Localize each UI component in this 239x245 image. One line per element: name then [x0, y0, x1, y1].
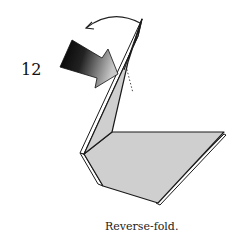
fold-line-dotted — [126, 66, 133, 93]
step-number: 12 — [21, 62, 41, 78]
swan-body — [80, 132, 226, 205]
push-arrow-icon — [60, 40, 118, 88]
curved-fold-arrow-icon — [86, 17, 140, 29]
step-caption: Reverse-fold. — [105, 220, 178, 233]
origami-diagram — [0, 0, 239, 245]
